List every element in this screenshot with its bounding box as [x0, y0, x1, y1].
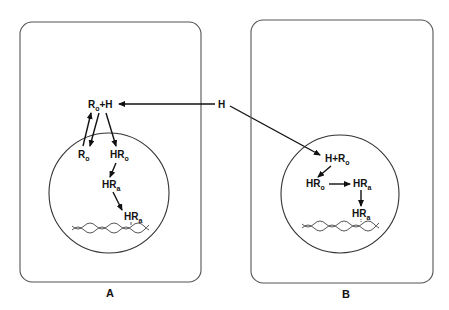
- arrow-hro-to-hra: [110, 163, 116, 177]
- arrow-ro-to-complex: [83, 113, 91, 146]
- b-occupied-receptor-hro: HRo: [306, 178, 325, 191]
- b-activated-receptor: HRa: [353, 178, 371, 191]
- a-occupied-receptor-hro: HRo: [110, 149, 129, 162]
- nucleus-a: [49, 133, 169, 253]
- arrow-hormone-to-nucleus-b: [230, 106, 320, 155]
- arrow-complex-to-hro: [106, 113, 116, 146]
- a-activated-receptor: HRa: [102, 179, 120, 192]
- free-hormone: H: [218, 99, 225, 110]
- receptor-diagram: Ro+H Ro HRo HRa HRa A H: [0, 0, 449, 310]
- dna-helix-b-icon: [302, 219, 379, 231]
- cell-b-boundary: [251, 20, 433, 283]
- panel-a: Ro+H Ro HRo HRa HRa A: [20, 22, 201, 299]
- arrow-hra-to-dna: [113, 192, 122, 210]
- a-dna-bound-receptor: HRa: [124, 211, 142, 224]
- a-unoccupied-receptor: Ro: [78, 149, 90, 162]
- arrow-complex-to-ro: [90, 113, 99, 146]
- panel-label-b: B: [342, 288, 350, 300]
- arrow-complex-to-hro-b: [318, 166, 331, 177]
- panel-label-a: A: [106, 287, 114, 299]
- dna-helix-a-icon: [72, 222, 149, 233]
- b-hormone-receptor-complex: H+Ro: [325, 153, 350, 166]
- panel-b: H+Ro HRo HRa HRa B: [251, 20, 433, 300]
- a-receptor-hormone-complex: Ro+H: [88, 99, 113, 112]
